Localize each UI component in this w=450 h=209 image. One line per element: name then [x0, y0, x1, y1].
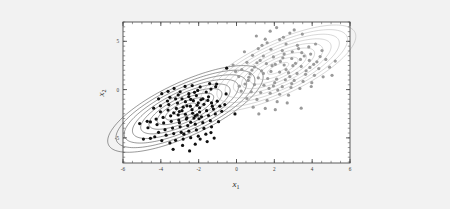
scatter-point [290, 57, 293, 60]
scatter-point [266, 99, 269, 102]
scatter-point [205, 90, 208, 93]
scatter-point [166, 90, 169, 93]
scatter-point [199, 85, 202, 88]
scatter-point [282, 36, 285, 39]
scatter-point [167, 103, 170, 106]
scatter-point [138, 122, 141, 125]
scatter-point [276, 88, 279, 91]
scatter-point [260, 44, 263, 47]
scatter-point [189, 98, 192, 101]
scatter-point [210, 101, 213, 104]
scatter-point [153, 135, 156, 138]
scatter-point [243, 82, 246, 85]
scatter-point [269, 48, 272, 51]
scatter-point [172, 87, 175, 90]
scatter-point [180, 97, 183, 100]
scatter-point [189, 136, 192, 139]
scatter-point [315, 60, 318, 63]
scatter-point [330, 74, 333, 77]
scatter-point [289, 86, 292, 89]
x-tick-label: -4 [159, 166, 164, 172]
scatter-point [152, 107, 155, 110]
scatter-point [166, 99, 169, 102]
scatter-point [281, 85, 284, 88]
scatter-point [187, 95, 190, 98]
scatter-point [168, 141, 171, 144]
scatter-point [187, 92, 190, 95]
scatter-point [253, 83, 256, 86]
scatter-point [251, 54, 254, 57]
scatter-point [159, 104, 162, 107]
scatter-point [225, 92, 228, 95]
scatter-point [283, 63, 286, 66]
scatter-point [149, 137, 152, 140]
scatter-point [174, 139, 177, 142]
scatter-point [300, 65, 303, 68]
scatter-point [206, 140, 209, 143]
scatter-point [250, 68, 253, 71]
scatter-point [278, 93, 281, 96]
scatter-point [185, 104, 188, 107]
scatter-point [290, 82, 293, 85]
scatter-point [305, 69, 308, 72]
scatter-point [312, 63, 315, 66]
scatter-point [266, 77, 269, 80]
y-tick-label: -5 [115, 135, 120, 141]
scatter-point [208, 82, 211, 85]
scatter-point [172, 132, 175, 135]
scatter-point [299, 58, 302, 61]
scatter-point [314, 42, 317, 45]
scatter-point [266, 41, 269, 44]
scatter-point [170, 120, 173, 123]
scatter-point [157, 131, 160, 134]
scatter-point [195, 94, 198, 97]
scatter-point [308, 59, 311, 62]
scatter-point [262, 54, 265, 57]
scatter-point [272, 84, 275, 87]
scatter-point [308, 66, 311, 69]
scatter-point [313, 74, 316, 77]
scatter-point [278, 38, 281, 41]
scatter-point [267, 87, 270, 90]
scatter-point [149, 120, 152, 123]
scatter-point [293, 28, 296, 31]
scatter-contour-plot: -6-4-20246 -505 x1 x2 [0, 0, 450, 209]
scatter-point [281, 49, 284, 52]
scatter-point [295, 72, 298, 75]
scatter-point [265, 62, 268, 65]
scatter-point [298, 87, 301, 90]
scatter-point [155, 117, 158, 120]
scatter-point [301, 32, 304, 35]
scatter-point [189, 105, 192, 108]
scatter-point [212, 108, 215, 111]
scatter-point [278, 70, 281, 73]
x-tick-label: -2 [197, 166, 202, 172]
scatter-point [209, 119, 212, 122]
scatter-point [180, 131, 183, 134]
scatter-point [287, 94, 290, 97]
scatter-point [181, 144, 184, 147]
scatter-point [284, 78, 287, 81]
scatter-point [283, 52, 286, 55]
scatter-point [260, 69, 263, 72]
scatter-point [174, 97, 177, 100]
scatter-point [142, 137, 145, 140]
scatter-point [210, 125, 213, 128]
scatter-point [309, 52, 312, 55]
x-tick-label: 2 [273, 166, 276, 172]
scatter-point [291, 50, 294, 53]
scatter-point [182, 133, 185, 136]
scatter-point [202, 103, 205, 106]
x-tick-label: 6 [349, 166, 352, 172]
scatter-point [250, 90, 253, 93]
scatter-point [163, 128, 166, 131]
scatter-point [252, 106, 255, 109]
scatter-point [185, 116, 188, 119]
scatter-point [178, 121, 181, 124]
scatter-point [310, 81, 313, 84]
scatter-point [216, 100, 219, 103]
scatter-point [303, 54, 306, 57]
scatter-point [182, 137, 185, 140]
scatter-point [146, 126, 149, 129]
scatter-point [162, 121, 165, 124]
